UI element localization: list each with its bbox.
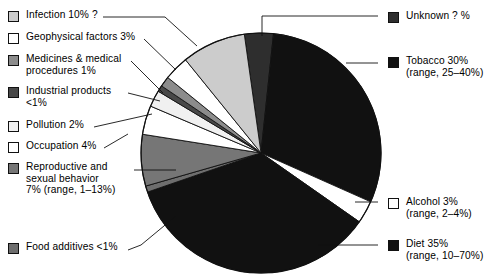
legend-swatch-diet — [388, 240, 399, 251]
legend-label-tobacco: Tobacco 30% (range, 25–40%) — [406, 55, 483, 78]
legend-entry-tobacco[interactable]: Tobacco 30% (range, 25–40%) — [388, 55, 483, 78]
legend-label-occupation: Occupation 4% — [26, 140, 96, 152]
leader-line-unknown — [262, 16, 378, 36]
legend-label-food-additives: Food additives <1% — [26, 241, 118, 253]
legend-entry-infection[interactable]: Infection 10% ? — [8, 9, 98, 22]
legend-label-infection: Infection 10% ? — [26, 9, 98, 21]
legend-swatch-reproductive-sexual-behavior — [8, 163, 19, 174]
legend-entry-unknown[interactable]: Unknown ? % — [388, 10, 470, 23]
legend-label-medicines-medical-procedures: Medicines & medical procedures 1% — [26, 53, 121, 76]
legend-swatch-industrial-products — [8, 87, 19, 98]
legend-swatch-medicines-medical-procedures — [8, 55, 19, 66]
legend-swatch-unknown — [388, 12, 399, 23]
pie-chart-figure: Infection 10% ?Geophysical factors 3%Med… — [0, 0, 497, 276]
legend-entry-medicines-medical-procedures[interactable]: Medicines & medical procedures 1% — [8, 53, 121, 76]
legend-swatch-alcohol — [388, 198, 399, 209]
leader-line-occupation — [104, 134, 128, 148]
leader-line-pollution — [94, 114, 152, 127]
legend-label-geophysical-factors: Geophysical factors 3% — [26, 31, 135, 43]
legend-entry-industrial-products[interactable]: Industrial products <1% — [8, 85, 111, 108]
legend-entry-geophysical-factors[interactable]: Geophysical factors 3% — [8, 31, 135, 44]
legend-entry-food-additives[interactable]: Food additives <1% — [8, 241, 118, 254]
leader-line-medicines — [131, 61, 163, 93]
legend-swatch-tobacco — [388, 57, 399, 68]
legend-entry-reproductive-sexual-behavior[interactable]: Reproductive and sexual behavior 7% (ran… — [8, 161, 115, 196]
legend-swatch-occupation — [8, 142, 19, 153]
legend-swatch-pollution — [8, 121, 19, 132]
legend-entry-alcohol[interactable]: Alcohol 3% (range, 2–4%) — [388, 196, 472, 219]
legend-label-industrial-products: Industrial products <1% — [26, 85, 111, 108]
legend-swatch-food-additives — [8, 243, 19, 254]
legend-entry-diet[interactable]: Diet 35% (range, 10–70%) — [388, 238, 483, 261]
pie-slices-group — [141, 33, 381, 273]
legend-label-unknown: Unknown ? % — [406, 10, 470, 22]
legend-entry-occupation[interactable]: Occupation 4% — [8, 140, 96, 153]
legend-entry-pollution[interactable]: Pollution 2% — [8, 119, 84, 132]
legend-swatch-geophysical-factors — [8, 33, 19, 44]
leader-line-geophysical-factors — [144, 39, 176, 70]
legend-label-reproductive-sexual-behavior: Reproductive and sexual behavior 7% (ran… — [26, 161, 115, 196]
legend-label-diet: Diet 35% (range, 10–70%) — [406, 238, 483, 261]
legend-swatch-infection — [8, 11, 19, 22]
legend-label-alcohol: Alcohol 3% (range, 2–4%) — [406, 196, 472, 219]
legend-label-pollution: Pollution 2% — [26, 119, 84, 131]
